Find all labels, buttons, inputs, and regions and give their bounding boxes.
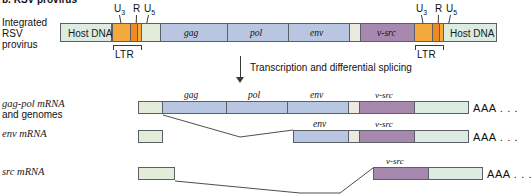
env-splice-line [163,115,293,137]
src-splice-line [175,168,373,193]
